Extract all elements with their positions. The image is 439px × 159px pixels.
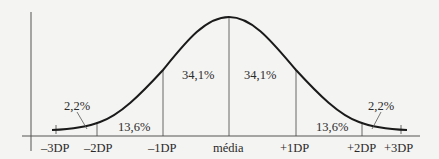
region-label-minus3: 2,2% — [64, 99, 90, 113]
region-label-minus1: 34,1% — [182, 68, 214, 82]
tick-label-minus1: –1DP — [147, 141, 177, 155]
region-label-minus2: 13,6% — [118, 120, 150, 134]
chart-canvas: 2,2% 13,6% 34,1% 34,1% 13,6% 2,2% –3DP –… — [0, 0, 439, 159]
normal-distribution-chart: 2,2% 13,6% 34,1% 34,1% 13,6% 2,2% –3DP –… — [0, 0, 439, 159]
region-label-plus2: 13,6% — [316, 120, 348, 134]
region-label-plus3: 2,2% — [368, 99, 394, 113]
tick-label-minus3: –3DP — [40, 141, 70, 155]
tick-label-minus2: –2DP — [83, 141, 113, 155]
region-label-plus1: 34,1% — [244, 68, 276, 82]
tick-label-plus2: +2DP — [347, 141, 376, 155]
tick-label-plus3: +3DP — [384, 141, 413, 155]
bell-curve — [52, 17, 407, 130]
tick-label-mean: média — [213, 141, 244, 155]
tick-label-plus1: +1DP — [280, 141, 309, 155]
